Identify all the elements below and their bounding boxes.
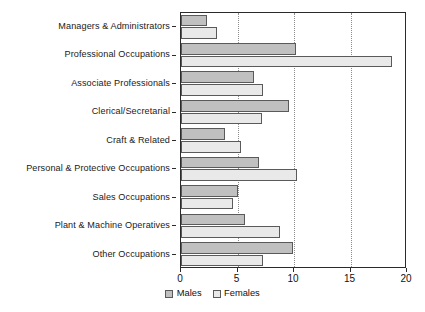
bar-females[interactable] xyxy=(181,198,233,210)
bar-males[interactable] xyxy=(181,100,289,112)
category-tick xyxy=(172,197,176,198)
category-tick xyxy=(172,26,176,27)
plot-area xyxy=(180,12,406,268)
value-tick xyxy=(180,268,181,272)
value-tick xyxy=(293,268,294,272)
bar-females[interactable] xyxy=(181,113,262,125)
category-axis: Managers & AdministratorsProfessional Oc… xyxy=(0,12,176,268)
bar-group xyxy=(181,184,405,212)
category-tick xyxy=(172,112,176,113)
value-tick-label: 10 xyxy=(287,273,298,284)
value-tick-label: 20 xyxy=(400,273,411,284)
category-tick xyxy=(172,168,176,169)
bar-group xyxy=(181,41,405,69)
bar-females[interactable] xyxy=(181,255,263,267)
legend-label: Females xyxy=(224,289,260,298)
category-tick xyxy=(172,225,176,226)
legend-entry-females[interactable]: Females xyxy=(213,289,260,298)
category-label: Craft & Related xyxy=(106,126,170,154)
bar-males[interactable] xyxy=(181,71,254,83)
value-tick xyxy=(237,268,238,272)
legend-swatch-icon xyxy=(165,290,173,298)
legend-label: Males xyxy=(177,289,202,298)
bar-males[interactable] xyxy=(181,242,293,254)
bar-males[interactable] xyxy=(181,157,259,169)
bar-females[interactable] xyxy=(181,84,263,96)
bar-group xyxy=(181,155,405,183)
category-tick xyxy=(172,83,176,84)
value-axis: 05101520 xyxy=(180,268,406,290)
category-label: Professional Occupations xyxy=(64,40,170,68)
legend-entry-males[interactable]: Males xyxy=(165,289,201,298)
category-label: Clerical/Secretarial xyxy=(92,97,170,125)
bar-females[interactable] xyxy=(181,169,297,181)
category-label: Sales Occupations xyxy=(92,183,170,211)
bar-females[interactable] xyxy=(181,27,217,39)
plot-inner xyxy=(181,13,405,267)
bar-group xyxy=(181,127,405,155)
category-tick xyxy=(172,140,176,141)
category-label: Personal & Protective Occupations xyxy=(26,154,170,182)
value-tick-label: 15 xyxy=(344,273,355,284)
bar-group xyxy=(181,98,405,126)
value-tick-label: 5 xyxy=(234,273,240,284)
bar-group xyxy=(181,70,405,98)
bar-males[interactable] xyxy=(181,128,225,140)
bar-males[interactable] xyxy=(181,214,245,226)
bar-males[interactable] xyxy=(181,15,207,27)
category-tick xyxy=(172,55,176,56)
category-tick xyxy=(172,254,176,255)
bar-females[interactable] xyxy=(181,226,280,238)
bar-group xyxy=(181,13,405,41)
bar-males[interactable] xyxy=(181,43,296,55)
bar-group xyxy=(181,212,405,240)
category-label: Plant & Machine Operatives xyxy=(55,211,170,239)
value-tick xyxy=(350,268,351,272)
bar-females[interactable] xyxy=(181,141,241,153)
category-label: Associate Professionals xyxy=(71,69,170,97)
bar-chart: Managers & AdministratorsProfessional Oc… xyxy=(0,0,425,312)
category-label: Other Occupations xyxy=(92,240,170,268)
category-label: Managers & Administrators xyxy=(58,12,170,40)
bar-females[interactable] xyxy=(181,56,392,68)
value-tick-label: 0 xyxy=(177,273,183,284)
chart-legend: MalesFemales xyxy=(0,289,425,298)
bar-group xyxy=(181,241,405,269)
legend-swatch-icon xyxy=(213,290,221,298)
value-tick xyxy=(406,268,407,272)
bar-males[interactable] xyxy=(181,185,238,197)
